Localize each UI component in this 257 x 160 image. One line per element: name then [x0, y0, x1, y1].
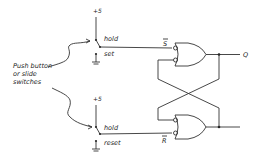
- annotation-line-3: switches: [13, 78, 42, 86]
- switch-annotation: Push button or slide switches: [13, 62, 52, 86]
- bottom-supply-label: +5: [93, 95, 102, 102]
- bottom-switch-lever: [96, 127, 100, 134]
- sr-latch-diagram: Push button or slide switches +5 hold se…: [0, 0, 257, 160]
- top-hold-label: hold: [104, 35, 119, 43]
- arrow-head-top: [86, 39, 90, 43]
- top-set-label: set: [104, 50, 114, 58]
- bottom-switch: +5 hold reset: [92, 95, 121, 151]
- bottom-reset-label: reset: [104, 139, 121, 147]
- arrow-to-bottom-switch: [52, 88, 92, 127]
- arrow-head-bottom: [88, 125, 92, 129]
- reset-bar-label: R: [162, 136, 167, 145]
- annotation-line-1: Push button: [13, 62, 52, 70]
- top-switch: +5 hold set: [92, 7, 119, 64]
- set-bar-label: S: [163, 39, 168, 48]
- set-bar-wire: [100, 47, 172, 48]
- bottom-nand-gate: [174, 115, 207, 139]
- bottom-hold-label: hold: [104, 124, 119, 132]
- top-switch-lever: [96, 40, 100, 47]
- svg-text:S: S: [163, 40, 167, 48]
- top-ground-icon: [92, 62, 100, 64]
- feedback-top-to-bottom: [158, 55, 219, 121]
- bottom-ground-icon: [92, 149, 100, 151]
- reset-bar-wire: [100, 133, 172, 134]
- arrow-to-top-switch: [48, 41, 90, 67]
- top-supply-label: +5: [93, 7, 102, 14]
- q-label: Q: [243, 51, 248, 59]
- annotation-line-2: or slide: [13, 70, 37, 78]
- top-nand-gate: [174, 43, 207, 66]
- svg-text:R: R: [162, 137, 167, 145]
